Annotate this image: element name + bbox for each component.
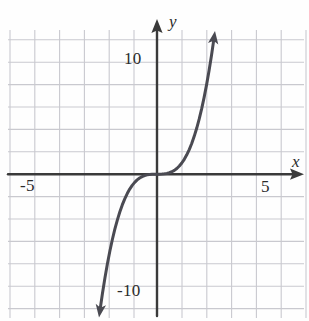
cubic-function-graph: 10 -10 -5 5 x y: [0, 0, 309, 321]
graph-canvas: [0, 0, 309, 321]
x-axis-label: x: [292, 152, 300, 172]
y-tick-label-neg-10: -10: [117, 281, 141, 301]
x-tick-label-neg-5: -5: [20, 176, 35, 196]
y-axis: [151, 19, 162, 316]
y-tick-label-10: 10: [124, 49, 142, 69]
x-tick-label-5: 5: [261, 177, 270, 197]
y-axis-label: y: [169, 12, 177, 32]
